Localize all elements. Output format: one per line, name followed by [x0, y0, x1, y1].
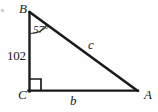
edge-artifact-mark [1, 9, 4, 12]
vertex-label-c: C [18, 88, 27, 101]
side-label-ca: b [70, 94, 77, 107]
vertex-label-b: B [19, 2, 27, 15]
right-triangle-figure: B C A 57° 102 b c [0, 0, 158, 112]
angle-label-b: 57° [33, 24, 48, 35]
right-angle-marker-c [30, 79, 42, 91]
side-label-ba: c [88, 38, 94, 51]
vertex-label-a: A [144, 88, 152, 101]
side-label-bc: 102 [7, 49, 26, 62]
